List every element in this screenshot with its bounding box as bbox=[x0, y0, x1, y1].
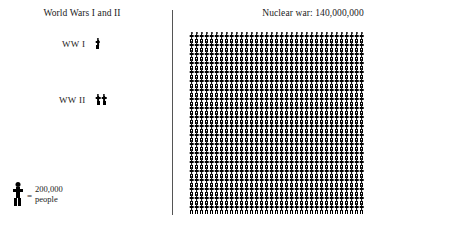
person-icon bbox=[12, 182, 23, 206]
row-ww1-label: WW I bbox=[62, 39, 85, 49]
left-panel-title: World Wars I and II bbox=[0, 8, 164, 18]
pictogram-row bbox=[189, 167, 449, 176]
left-panel: World Wars I and II WW I WW II bbox=[0, 0, 172, 225]
pictogram-row bbox=[189, 113, 449, 122]
pictogram-row bbox=[189, 41, 449, 50]
person-icon bbox=[359, 203, 364, 214]
nuclear-pictogram-grid bbox=[189, 32, 449, 212]
pictogram-row bbox=[189, 176, 449, 185]
pictogram-row bbox=[189, 185, 449, 194]
pictogram-row bbox=[189, 122, 449, 131]
pictogram-row bbox=[189, 149, 449, 158]
infographic-root: World Wars I and II WW I WW II bbox=[0, 0, 454, 225]
person-icon bbox=[102, 94, 107, 105]
pictogram-row bbox=[189, 32, 449, 41]
pictogram-row bbox=[189, 140, 449, 149]
row-ww1-figures bbox=[95, 38, 100, 49]
row-ww1: WW I bbox=[62, 38, 100, 49]
pictogram-row bbox=[189, 203, 449, 212]
pictogram-row bbox=[189, 86, 449, 95]
legend-equals-sign: = bbox=[27, 187, 32, 201]
legend: = 200,000 people bbox=[12, 182, 63, 206]
pictogram-row bbox=[189, 131, 449, 140]
right-panel: Nuclear war: 140,000,000 bbox=[172, 0, 454, 225]
legend-text: 200,000 people bbox=[35, 184, 63, 204]
pictogram-row bbox=[189, 194, 449, 203]
pictogram-row bbox=[189, 68, 449, 77]
pictogram-row bbox=[189, 77, 449, 86]
legend-unit: people bbox=[35, 194, 63, 204]
row-ww2-label: WW II bbox=[59, 95, 86, 105]
row-ww2: WW II bbox=[59, 94, 107, 105]
right-panel-title: Nuclear war: 140,000,000 bbox=[172, 8, 454, 18]
pictogram-row bbox=[189, 104, 449, 113]
row-ww2-figures bbox=[96, 94, 107, 105]
legend-value: 200,000 bbox=[35, 184, 63, 194]
pictogram-row bbox=[189, 158, 449, 167]
pictogram-row bbox=[189, 50, 449, 59]
person-icon bbox=[95, 38, 100, 49]
pictogram-row bbox=[189, 59, 449, 68]
person-icon bbox=[96, 94, 101, 105]
pictogram-row bbox=[189, 95, 449, 104]
